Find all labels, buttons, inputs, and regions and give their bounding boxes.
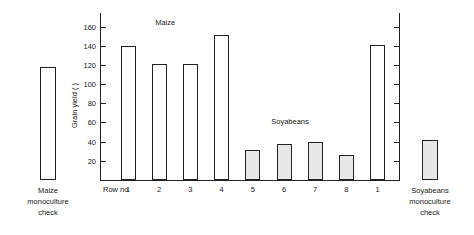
bar [277, 144, 292, 180]
right-axis-tick-mark [394, 84, 399, 85]
y-tick-mark [101, 142, 106, 143]
y-tick-mark [101, 161, 106, 162]
check-caption-line-2: monoculture [370, 196, 474, 207]
series-label-soyabeans: Soyabeans [271, 117, 309, 126]
bar [121, 46, 136, 180]
right-axis-line [399, 13, 400, 181]
row-number-label: 3 [188, 185, 192, 194]
bar [152, 64, 167, 180]
right-axis-tick-mark [394, 103, 399, 104]
row-number-label: 4 [220, 185, 224, 194]
y-tick-mark [101, 46, 106, 47]
y-tick-label: 60 [88, 118, 98, 127]
right-axis-tick-mark [394, 65, 399, 66]
y-tick-label: 100 [83, 80, 98, 89]
row-number-label: 2 [157, 185, 161, 194]
soyabeans-monoculture-check-bar [422, 140, 438, 180]
row-number-label: 8 [344, 185, 348, 194]
x-axis-line [100, 180, 400, 181]
row-no-axis-label: Row no [103, 185, 128, 194]
y-tick-mark [101, 27, 106, 28]
bar [183, 64, 198, 180]
series-label-maize: Maize [155, 18, 175, 27]
y-tick-mark [101, 103, 106, 104]
bar [214, 35, 229, 180]
bar [339, 155, 354, 180]
row-number-label: 5 [251, 185, 255, 194]
right-axis-tick-mark [394, 142, 399, 143]
y-tick-label: 40 [88, 137, 98, 146]
row-number-label: 6 [282, 185, 286, 194]
right-axis-tick-mark [394, 27, 399, 28]
check-caption-line-3: check [370, 207, 474, 218]
bar [370, 45, 385, 180]
right-axis-tick-mark [394, 161, 399, 162]
y-axis-line [100, 13, 101, 181]
bar [245, 150, 260, 180]
soyabeans-monoculture-check-caption: Soyabeans monoculture check [370, 185, 474, 218]
row-number-label: 7 [313, 185, 317, 194]
y-tick-mark [101, 122, 106, 123]
bar-chart-figure: Maize monoculture check 2040608010012014… [0, 0, 474, 235]
y-axis-label: Grain yield ( ) [70, 83, 79, 128]
y-tick-label: 20 [88, 156, 98, 165]
y-tick-label: 120 [83, 60, 98, 69]
right-axis-tick-mark [394, 46, 399, 47]
right-axis-tick-mark [394, 122, 399, 123]
y-tick-mark [101, 84, 106, 85]
bar [308, 142, 323, 180]
y-tick-label: 140 [83, 41, 98, 50]
y-tick-mark [101, 65, 106, 66]
check-caption-line-1: Soyabeans [370, 185, 474, 196]
y-tick-label: 80 [88, 99, 98, 108]
y-tick-label: 160 [83, 22, 98, 31]
